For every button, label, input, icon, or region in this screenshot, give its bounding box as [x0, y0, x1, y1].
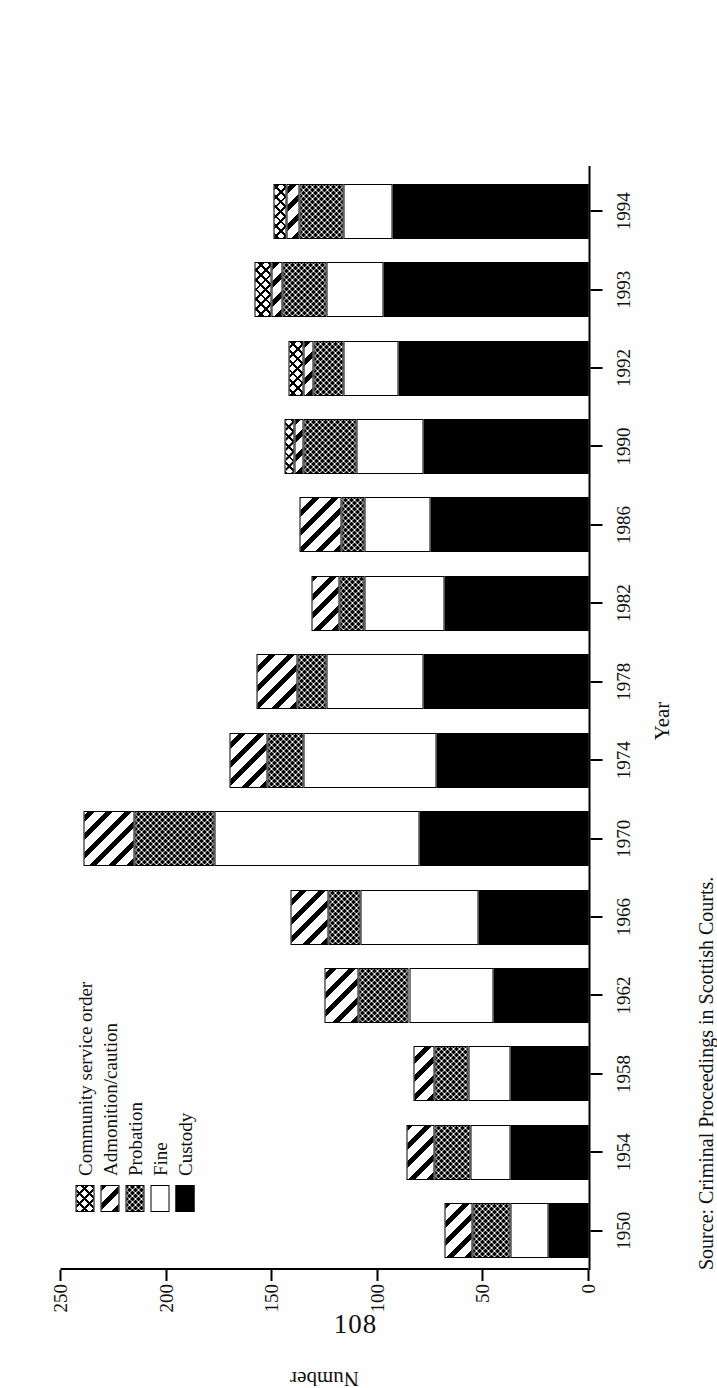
bar-1970[interactable] — [83, 811, 588, 866]
bar-segment — [256, 654, 296, 709]
category-axis-tick — [590, 602, 602, 604]
bar-segment — [468, 1047, 510, 1102]
bar-1994[interactable] — [273, 184, 588, 239]
value-axis-tick — [59, 1270, 61, 1281]
bar-segment — [430, 498, 588, 553]
bar-1954[interactable] — [406, 1125, 588, 1180]
bar-segment — [444, 1203, 471, 1258]
bar-1978[interactable] — [256, 654, 588, 709]
value-axis-title: Number — [290, 1366, 359, 1388]
bar-segment — [423, 654, 588, 709]
category-axis-tick — [590, 289, 602, 291]
bar-segment — [303, 419, 356, 474]
category-axis-tick — [590, 210, 602, 212]
bar-segment — [413, 1047, 434, 1102]
bar-segment — [286, 184, 299, 239]
bar-1982[interactable] — [311, 576, 588, 631]
page-number: 108 — [0, 1309, 711, 1340]
bar-segment — [493, 968, 588, 1023]
bar-segment — [267, 733, 303, 788]
bar-segment — [444, 576, 588, 631]
category-axis-tick-label: 1974 — [613, 741, 632, 779]
bar-segment — [360, 890, 478, 945]
category-axis-tick — [590, 1151, 602, 1153]
bar-segment — [297, 654, 327, 709]
bar-segment — [326, 654, 423, 709]
bar-segment — [478, 890, 588, 945]
bar-segment — [383, 262, 588, 317]
bar-segment — [409, 968, 493, 1023]
bar-segment — [83, 811, 134, 866]
category-axis-tick-label: 1982 — [613, 584, 632, 622]
bar-segment — [406, 1125, 433, 1180]
bar-1992[interactable] — [288, 341, 588, 396]
value-axis-tick — [587, 1270, 589, 1281]
bar-segment — [434, 1047, 468, 1102]
bar-segment — [339, 576, 364, 631]
category-axis-tick-label: 1986 — [613, 506, 632, 544]
bar-segment — [343, 184, 392, 239]
bar-1958[interactable] — [413, 1047, 588, 1102]
bar-1950[interactable] — [444, 1203, 588, 1258]
bar-segment — [303, 341, 314, 396]
category-axis-tick — [590, 838, 602, 840]
bar-segment — [364, 576, 444, 631]
category-axis-tick-label: 1990 — [613, 428, 632, 466]
bar-group — [60, 172, 588, 1270]
category-axis-tick-label: 1992 — [613, 349, 632, 387]
bar-segment — [472, 1203, 510, 1258]
figure-source: Source: Criminal Proceedings in Scottish… — [694, 877, 717, 1270]
bar-1966[interactable] — [290, 890, 588, 945]
bar-segment — [328, 890, 360, 945]
bar-segment — [284, 419, 295, 474]
category-axis-tick — [590, 1073, 602, 1075]
bar-1986[interactable] — [299, 498, 588, 553]
category-axis-tick — [590, 367, 602, 369]
value-axis-tick — [165, 1270, 167, 1281]
bar-segment — [356, 419, 424, 474]
bar-segment — [364, 498, 429, 553]
category-axis-tick — [590, 1230, 602, 1232]
category-axis-tick — [590, 759, 602, 761]
bar-segment — [398, 341, 588, 396]
category-axis-tick-label: 1958 — [613, 1055, 632, 1093]
category-axis-tick-label: 1966 — [613, 898, 632, 936]
category-axis-tick — [590, 916, 602, 918]
value-axis-tick — [376, 1270, 378, 1281]
bar-segment — [288, 341, 303, 396]
bar-segment — [358, 968, 409, 1023]
category-axis-tick — [590, 681, 602, 683]
value-axis-tick — [481, 1270, 483, 1281]
bar-segment — [311, 576, 338, 631]
category-axis-tick-label: 1950 — [613, 1212, 632, 1250]
bar-1990[interactable] — [284, 419, 588, 474]
bar-segment — [436, 733, 588, 788]
bar-segment — [282, 262, 326, 317]
category-axis-tick-label: 1994 — [613, 192, 632, 230]
bar-segment — [510, 1125, 588, 1180]
bar-segment — [273, 184, 286, 239]
bar-segment — [510, 1203, 548, 1258]
bar-segment — [343, 341, 398, 396]
bar-1974[interactable] — [229, 733, 588, 788]
bar-segment — [341, 498, 364, 553]
bar-segment — [392, 184, 588, 239]
bar-segment — [229, 733, 267, 788]
category-axis-tick — [590, 995, 602, 997]
category-axis-tick-label: 1970 — [613, 820, 632, 858]
bar-segment — [303, 733, 436, 788]
bar-segment — [548, 1203, 588, 1258]
bar-segment — [299, 184, 343, 239]
bar-segment — [434, 1125, 470, 1180]
bar-1993[interactable] — [254, 262, 588, 317]
bar-segment — [470, 1125, 510, 1180]
category-axis-tick-label: 1978 — [613, 663, 632, 701]
category-axis-tick — [590, 524, 602, 526]
bar-segment — [326, 262, 383, 317]
category-axis-tick — [590, 446, 602, 448]
bar-segment — [313, 341, 343, 396]
bar-segment — [423, 419, 588, 474]
bar-1962[interactable] — [324, 968, 588, 1023]
category-axis-tick-label: 1962 — [613, 977, 632, 1015]
